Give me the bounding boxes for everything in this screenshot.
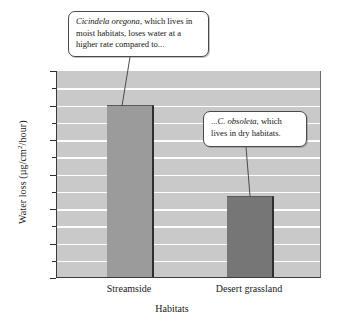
- x-tick-label-desert-grassland: Desert grassland: [189, 283, 309, 294]
- y-axis-title: Water loss (µg/cm2/hour): [16, 77, 28, 267]
- gridline-10: [57, 244, 320, 246]
- y-tick-20: [50, 209, 56, 210]
- y-tick-50: [50, 106, 56, 107]
- bar-chart-figure: 60 50 40 30 20 10 0 Water loss (µg/cm2/h…: [0, 0, 344, 324]
- y-tick-60: [50, 71, 56, 72]
- plot-area: [56, 71, 321, 278]
- callout-obsoleta-species: C. obsoleta: [217, 116, 256, 126]
- gridline-50: [57, 106, 320, 108]
- callout-cicindela-oregona[interactable]: Cicindela oregona, which lives in moist …: [68, 11, 209, 57]
- y-tick-55: [52, 88, 56, 89]
- y-tick-30: [50, 175, 56, 176]
- y-tick-10: [50, 244, 56, 245]
- gridline-20: [57, 209, 320, 211]
- y-tick-0: [50, 278, 56, 279]
- gridline-15: [57, 226, 320, 228]
- gridline-35: [57, 157, 320, 159]
- bar-streamside[interactable]: [107, 105, 154, 278]
- bar-desert-grassland-fill: [227, 196, 274, 277]
- callout-oregona-species: Cicindela oregona: [76, 16, 140, 26]
- gridline-25: [57, 192, 320, 194]
- y-tick-35: [52, 157, 56, 158]
- bar-streamside-fill: [107, 105, 154, 278]
- y-tick-15: [52, 226, 56, 227]
- bar-desert-grassland[interactable]: [227, 196, 274, 277]
- x-tick-label-streamside: Streamside: [69, 283, 189, 294]
- callout-c-obsoleta[interactable]: ...C. obsoleta, which lives in dry habit…: [203, 111, 307, 147]
- x-axis-title: Habitats: [0, 303, 344, 314]
- gridline-5: [57, 261, 320, 263]
- gridline-55: [57, 88, 320, 90]
- y-axis-title-prefix: Water loss (µg/cm: [17, 149, 28, 224]
- y-axis-title-suffix: /hour): [17, 120, 28, 145]
- y-tick-5: [52, 261, 56, 262]
- y-axis-title-superscript: 2: [16, 145, 24, 149]
- y-tick-25: [52, 192, 56, 193]
- y-tick-45: [52, 123, 56, 124]
- gridline-30: [57, 175, 320, 177]
- y-tick-40: [50, 140, 56, 141]
